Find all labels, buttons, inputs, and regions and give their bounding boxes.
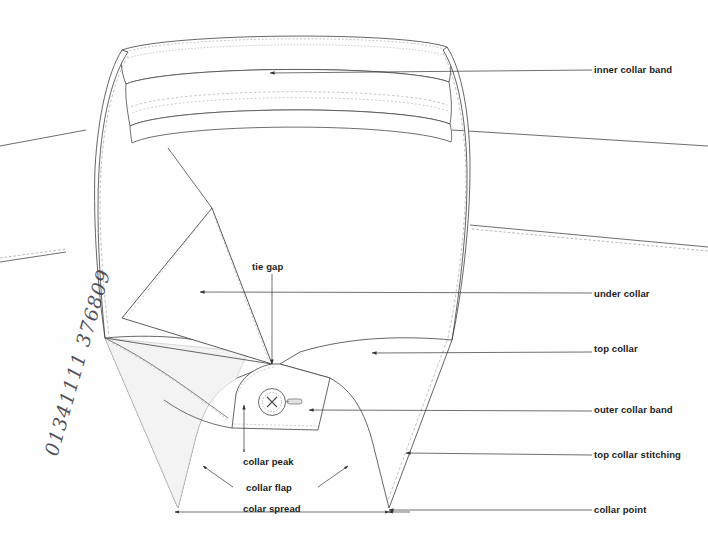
collar-diagram-canvas: inner collar band under collar top colla… <box>0 0 708 538</box>
label-inner-collar-band: inner collar band <box>594 64 672 75</box>
label-colar-spread: colar spread <box>243 503 301 514</box>
right-yoke-stitch <box>472 229 708 251</box>
left-shoulder-seam <box>0 130 86 146</box>
under-collar-shape <box>122 148 272 364</box>
label-collar-point: collar point <box>594 504 646 515</box>
label-top-collar: top collar <box>594 343 638 354</box>
label-top-collar-stitching: top collar stitching <box>594 449 681 460</box>
under-collar-fold-line <box>168 148 212 208</box>
collar-flap-arrow-left <box>203 466 233 487</box>
buttonhole-slot <box>287 399 302 404</box>
label-collar-flap: collar flap <box>246 482 292 493</box>
right-yoke-seam <box>470 225 708 247</box>
label-collar-peak: collar peak <box>243 456 294 467</box>
leader-under-collar <box>200 292 592 293</box>
leader-outer-collar-band <box>309 410 592 411</box>
right-shoulder-seam <box>452 130 708 146</box>
label-tie-gap: tie gap <box>252 261 283 272</box>
label-under-collar: under collar <box>594 288 650 299</box>
leader-top-collar-stitching <box>406 453 592 455</box>
label-outer-collar-band: outer collar band <box>594 404 673 415</box>
shirt-body-outline <box>0 130 708 262</box>
collar-flap-arrow-right <box>318 466 348 487</box>
